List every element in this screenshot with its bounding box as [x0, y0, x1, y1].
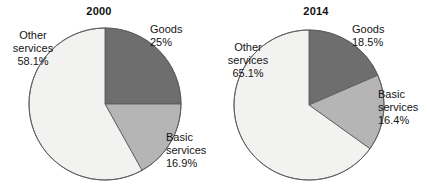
- pie-value-goods-2014: 18.5%: [352, 36, 384, 49]
- pie-label-other-services-2000: Other services 58.1%: [2, 29, 64, 68]
- pie-label-goods-2014: Goods 18.5%: [352, 23, 384, 49]
- pie-label-other-services-2014-line2: services: [217, 54, 279, 67]
- pie-label-other-services-2000-line2: services: [2, 42, 64, 55]
- pie-label-other-services-2014-line1: Other: [217, 41, 279, 54]
- pie-value-other-services-2014: 65.1%: [217, 67, 279, 80]
- pie-label-basic-services-2014: Basic services 16.4%: [378, 88, 418, 127]
- pie-label-basic-services-2000-line2: services: [166, 144, 206, 157]
- pie-label-basic-services-2014-line2: services: [378, 101, 418, 114]
- pie-label-goods-2000-name: Goods: [150, 23, 182, 36]
- pie-label-basic-services-2000-line1: Basic: [166, 131, 206, 144]
- pie-label-basic-services-2014-line1: Basic: [378, 88, 418, 101]
- pie-label-other-services-2000-line1: Other: [2, 29, 64, 42]
- pie-value-other-services-2000: 58.1%: [2, 55, 64, 68]
- pie-value-goods-2000: 25%: [150, 36, 182, 49]
- pie-value-basic-services-2000: 16.9%: [166, 157, 206, 170]
- pie-label-other-services-2014: Other services 65.1%: [217, 41, 279, 80]
- pie-label-goods-2000: Goods 25%: [150, 23, 182, 49]
- pie-value-basic-services-2014: 16.4%: [378, 114, 418, 127]
- chart-panel-2014: 2014 Other services 65.1% Goods 18.5% Ba…: [215, 0, 429, 191]
- pie-chart-figure: 2000 Other services 58.1% Goods 25% Basi…: [0, 0, 429, 191]
- chart-panel-2000: 2000 Other services 58.1% Goods 25% Basi…: [0, 0, 214, 191]
- pie-label-basic-services-2000: Basic services 16.9%: [166, 131, 206, 170]
- pie-label-goods-2014-name: Goods: [352, 23, 384, 36]
